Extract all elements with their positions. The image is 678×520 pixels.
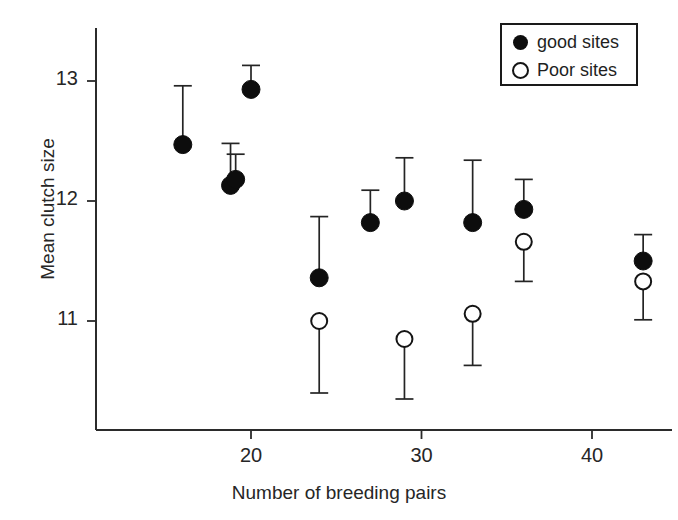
filled-circle-icon xyxy=(510,32,530,52)
data-point-filled xyxy=(515,200,533,218)
data-point-filled xyxy=(634,252,652,270)
y-axis-tick-label: 13 xyxy=(30,67,78,90)
data-point-filled xyxy=(464,214,482,232)
data-point-filled xyxy=(361,214,379,232)
y-axis-tick-label: 11 xyxy=(30,307,78,330)
open-circle-icon xyxy=(510,60,530,80)
data-point-open xyxy=(396,331,412,347)
series-good-sites xyxy=(174,65,652,286)
y-axis-title: Mean clutch size xyxy=(37,109,59,309)
x-axis-title: Number of breeding pairs xyxy=(0,482,678,504)
data-point-filled xyxy=(395,192,413,210)
legend-label-good-sites: good sites xyxy=(537,32,619,53)
series-poor-sites xyxy=(310,234,652,399)
legend-item-poor-sites: Poor sites xyxy=(502,56,636,84)
x-axis-tick-label: 20 xyxy=(221,444,281,467)
data-point-filled xyxy=(174,136,192,154)
x-axis-tick-label: 30 xyxy=(392,444,452,467)
data-point-filled xyxy=(227,170,245,188)
figure-canvas: 111213203040 Mean clutch size Number of … xyxy=(0,0,678,520)
data-point-open xyxy=(465,306,481,322)
data-point-open xyxy=(311,313,327,329)
x-axis-tick-label: 40 xyxy=(562,444,622,467)
data-point-open xyxy=(516,234,532,250)
data-point-filled xyxy=(310,269,328,287)
axis-ticks-group xyxy=(87,81,592,439)
data-point-open xyxy=(635,273,651,289)
legend-box: good sites Poor sites xyxy=(500,23,638,86)
data-point-filled xyxy=(242,80,260,98)
data-series-group xyxy=(174,65,652,399)
legend-label-poor-sites: Poor sites xyxy=(537,60,617,81)
legend-item-good-sites: good sites xyxy=(502,28,636,56)
